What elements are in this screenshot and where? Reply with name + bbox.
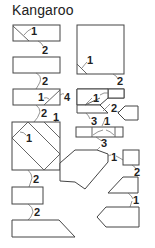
side-label: 2 <box>111 102 117 114</box>
step-r2: 1 2 3 1 <box>77 89 124 127</box>
step-l5: 2 <box>12 187 43 220</box>
folding-diagram: 1 2 2 1 4 2 1 1 2 2 <box>0 0 155 248</box>
step-r1: 1 2 <box>77 25 124 87</box>
step-label: 2 <box>117 75 123 87</box>
step-r4: 1 <box>60 147 123 189</box>
step-label: 2 <box>42 44 48 56</box>
fold-label: 1 <box>38 91 44 103</box>
fold-label: 1 <box>87 54 93 66</box>
step-label: 1 <box>53 111 59 123</box>
step-l4: 1 2 <box>12 122 60 187</box>
step-l6 <box>12 220 75 237</box>
step-r2b <box>118 106 138 120</box>
step-label: 2 <box>34 206 40 218</box>
fold-label: 1 <box>26 132 32 144</box>
step-label: 1 <box>133 194 139 206</box>
step-label: 2 <box>33 173 39 185</box>
step-r7 <box>97 207 139 227</box>
step-label: 1 <box>104 115 110 127</box>
side-label: 4 <box>64 91 71 103</box>
step-label: 3 <box>101 137 107 149</box>
step-label: 2 <box>41 107 47 119</box>
step-label: 2 <box>134 166 140 178</box>
step-l2: 2 <box>13 57 60 89</box>
fold-label: 1 <box>31 25 37 37</box>
step-r5: 2 <box>123 150 140 178</box>
step-l1: 1 2 <box>13 25 60 56</box>
step-r6: 1 <box>108 177 139 207</box>
fold-label: 1 <box>93 92 99 104</box>
step-label: 3 <box>91 115 97 127</box>
side-label: 1 <box>111 151 117 163</box>
step-label: 2 <box>42 75 48 87</box>
step-r3: 3 <box>76 127 123 149</box>
